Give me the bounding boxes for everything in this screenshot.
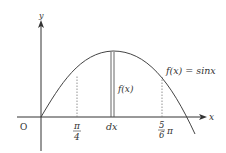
strip-label: f(x) [117, 84, 134, 94]
five-sixths-denominator: 6 [159, 130, 165, 140]
y-axis-label: y [38, 11, 44, 20]
dx-label: dx [106, 121, 118, 132]
x-axis-label: x [209, 112, 214, 122]
sine-graph: y x O f(x) = sinx f(x) π 4 dx 5 6 π [0, 0, 226, 153]
pi-over-4-denominator: 4 [73, 132, 80, 142]
five-sixths-pi-symbol: π [166, 126, 174, 136]
origin-label: O [20, 121, 27, 132]
function-label: f(x) = sinx [165, 65, 216, 76]
pi-over-4-numerator: π [73, 121, 81, 131]
five-sixths-numerator: 5 [159, 120, 164, 130]
